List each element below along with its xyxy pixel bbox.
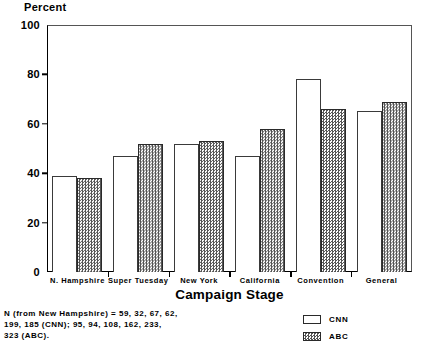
bar-cnn <box>357 111 382 272</box>
legend-item-cnn: CNN <box>303 313 348 326</box>
x-tick-label: Convention <box>290 276 351 285</box>
y-axis-title: Percent <box>24 1 66 13</box>
y-tick-label: 80 <box>0 68 47 80</box>
legend-item-abc: ABC <box>303 330 348 343</box>
chart-note: N (from New Hampshire) = 59, 32, 67, 62,… <box>4 308 254 342</box>
y-tick-label: 0 <box>0 266 47 278</box>
legend-swatch-abc <box>303 332 321 341</box>
x-tick-label: General <box>351 276 412 285</box>
y-tick-label: 40 <box>0 167 47 179</box>
y-tick-label: 20 <box>0 217 47 229</box>
bar-group <box>47 25 108 272</box>
legend: CNNABC <box>303 313 348 346</box>
bar-cnn <box>113 156 138 272</box>
bar-abc <box>260 129 285 272</box>
bar-abc <box>199 141 224 272</box>
bar-cnn <box>52 176 77 272</box>
x-tick-label: New York <box>169 276 230 285</box>
legend-label: CNN <box>329 315 348 324</box>
bar-groups <box>47 25 412 272</box>
x-axis-title: Campaign Stage <box>47 287 412 302</box>
legend-swatch-cnn <box>303 315 321 324</box>
bar-group <box>108 25 169 272</box>
x-tick-label: Super Tuesday <box>108 276 169 285</box>
y-tick-label: 100 <box>0 19 47 31</box>
bar-group <box>169 25 230 272</box>
bar-group <box>351 25 412 272</box>
bar-cnn <box>296 79 321 272</box>
bar-group <box>229 25 290 272</box>
bar-group <box>290 25 351 272</box>
bar-abc <box>138 144 163 272</box>
x-axis-tick-labels: N. HampshireSuper TuesdayNew YorkCalifor… <box>47 276 412 285</box>
bar-cnn <box>174 144 199 272</box>
bar-abc <box>77 178 102 272</box>
bar-chart-figure: Percent 020406080100 N. HampshireSuper T… <box>0 0 431 346</box>
legend-label: ABC <box>329 332 348 341</box>
bar-abc <box>321 109 346 272</box>
bar-abc <box>382 102 407 272</box>
bar-cnn <box>235 156 260 272</box>
x-tick-label: California <box>229 276 290 285</box>
x-tick-label: N. Hampshire <box>47 276 108 285</box>
y-tick-label: 60 <box>0 118 47 130</box>
